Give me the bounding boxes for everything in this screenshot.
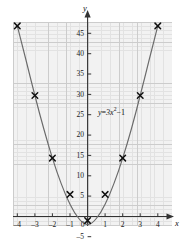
y-tick-label-45: 45 bbox=[60, 30, 84, 38]
y-tick-label-30: 30 bbox=[60, 91, 84, 99]
graph-figure: 45 40 35 30 25 20 15 10 5 –5 –4 –3 –2 –1… bbox=[0, 0, 185, 245]
y-tick-label-40: 40 bbox=[60, 50, 84, 58]
marker-x-pos2 bbox=[120, 155, 126, 161]
y-tick-label-20: 20 bbox=[60, 131, 84, 139]
y-tick-label-5: 5 bbox=[60, 192, 84, 200]
x-tick-label-neg4: –4 bbox=[8, 221, 26, 229]
x-tick-label-neg2: –2 bbox=[43, 221, 61, 229]
x-tick-label-1: 1 bbox=[96, 221, 114, 229]
equation-coefficient: 3x bbox=[106, 108, 114, 117]
y-tick-label-15: 15 bbox=[60, 152, 84, 160]
x-tick-label-3: 3 bbox=[131, 221, 149, 229]
x-tick-label-neg3: –3 bbox=[26, 221, 44, 229]
x-axis-arrowhead bbox=[167, 213, 175, 219]
graph-overlay bbox=[0, 0, 185, 245]
equation-annotation: y=3x2−1 bbox=[98, 107, 125, 117]
marker-x-pos1 bbox=[102, 192, 108, 198]
x-axis-label: x bbox=[175, 219, 179, 228]
y-axis-label: y bbox=[83, 4, 87, 13]
equation-constant: 1 bbox=[121, 108, 125, 117]
y-tick-label-35: 35 bbox=[60, 70, 84, 78]
y-tick-label-10: 10 bbox=[60, 172, 84, 180]
x-tick-label-2: 2 bbox=[114, 221, 132, 229]
marker-x-neg2 bbox=[50, 155, 56, 161]
x-tick-label-4: 4 bbox=[149, 221, 167, 229]
x-tick-label-zero: 0 bbox=[77, 221, 89, 229]
y-tick-label-25: 25 bbox=[60, 111, 84, 119]
y-tick-label-neg5: –5 bbox=[60, 233, 84, 241]
